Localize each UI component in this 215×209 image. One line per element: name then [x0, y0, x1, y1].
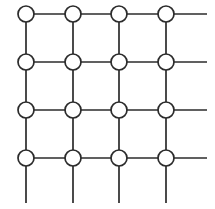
lattice-node — [111, 102, 127, 118]
lattice-node — [158, 54, 174, 70]
lattice-node — [111, 6, 127, 22]
lattice-node — [18, 6, 34, 22]
lattice-canvas — [0, 0, 215, 209]
lattice-node — [65, 54, 81, 70]
lattice-node — [158, 102, 174, 118]
lattice-node — [158, 6, 174, 22]
lattice-node — [65, 6, 81, 22]
lattice-node — [18, 102, 34, 118]
lattice-node — [65, 150, 81, 166]
lattice-node — [18, 150, 34, 166]
lattice-node — [111, 54, 127, 70]
lattice-node — [18, 54, 34, 70]
lattice-node — [111, 150, 127, 166]
lattice-diagram-figure — [0, 0, 215, 209]
lattice-node — [65, 102, 81, 118]
lattice-node — [158, 150, 174, 166]
